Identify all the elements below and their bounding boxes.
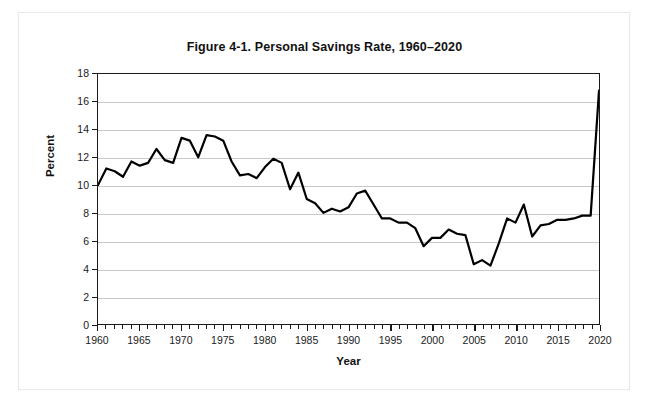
- x-tick-minor: [566, 325, 567, 329]
- x-tick-label: 1995: [367, 334, 413, 346]
- y-tick-label: 10: [55, 180, 89, 190]
- x-tick-minor: [273, 325, 274, 329]
- x-tick-minor: [533, 325, 534, 329]
- x-tick-label: 1985: [284, 334, 330, 346]
- x-tick-minor: [575, 325, 576, 329]
- x-tick-major: [558, 325, 559, 331]
- x-tick-label: 2010: [493, 334, 539, 346]
- figure-page: Figure 4-1. Personal Savings Rate, 1960–…: [0, 0, 649, 411]
- x-tick-minor: [491, 325, 492, 329]
- x-tick-minor: [248, 325, 249, 329]
- x-tick-major: [432, 325, 433, 331]
- x-tick-label: 1960: [74, 334, 120, 346]
- x-tick-minor: [214, 325, 215, 329]
- x-tick-minor: [466, 325, 467, 329]
- x-tick-minor: [541, 325, 542, 329]
- x-tick-label: 1980: [242, 334, 288, 346]
- x-tick-minor: [206, 325, 207, 329]
- plot-area: [97, 73, 600, 325]
- y-tick-label: 14: [55, 124, 89, 134]
- x-tick-minor: [164, 325, 165, 329]
- x-tick-label: 1975: [200, 334, 246, 346]
- y-tick-label: 0: [55, 320, 89, 330]
- x-tick-minor: [441, 325, 442, 329]
- x-tick-label: 2015: [535, 334, 581, 346]
- x-tick-minor: [424, 325, 425, 329]
- x-axis-title: Year: [97, 355, 600, 367]
- x-tick-minor: [332, 325, 333, 329]
- x-tick-minor: [315, 325, 316, 329]
- x-tick-minor: [592, 325, 593, 329]
- x-tick-minor: [231, 325, 232, 329]
- x-tick-minor: [340, 325, 341, 329]
- x-tick-minor: [382, 325, 383, 329]
- y-tick-label: 2: [55, 292, 89, 302]
- x-tick-label: 2000: [409, 334, 455, 346]
- x-tick-label: 2020: [577, 334, 623, 346]
- page-title: Figure 4-1. Personal Savings Rate, 1960–…: [0, 40, 649, 54]
- x-tick-major: [390, 325, 391, 331]
- x-tick-minor: [365, 325, 366, 329]
- y-tick-label: 16: [55, 96, 89, 106]
- y-tick-label: 18: [55, 68, 89, 78]
- x-tick-minor: [323, 325, 324, 329]
- x-tick-minor: [281, 325, 282, 329]
- x-tick-minor: [256, 325, 257, 329]
- x-tick-minor: [172, 325, 173, 329]
- x-tick-major: [516, 325, 517, 331]
- x-tick-label: 1965: [116, 334, 162, 346]
- x-tick-minor: [114, 325, 115, 329]
- x-tick-major: [600, 325, 601, 331]
- x-tick-label: 1970: [158, 334, 204, 346]
- savings-rate-line-series: [98, 74, 599, 324]
- y-tick-label: 4: [55, 264, 89, 274]
- x-tick-minor: [357, 325, 358, 329]
- x-tick-major: [97, 325, 98, 331]
- x-tick-minor: [198, 325, 199, 329]
- x-tick-major: [474, 325, 475, 331]
- x-tick-label: 2005: [451, 334, 497, 346]
- y-tick-label: 6: [55, 236, 89, 246]
- x-tick-minor: [122, 325, 123, 329]
- x-tick-minor: [483, 325, 484, 329]
- y-tick-label: 8: [55, 208, 89, 218]
- x-tick-minor: [449, 325, 450, 329]
- x-tick-major: [307, 325, 308, 331]
- x-tick-major: [181, 325, 182, 331]
- x-tick-minor: [240, 325, 241, 329]
- x-tick-minor: [583, 325, 584, 329]
- x-tick-minor: [105, 325, 106, 329]
- x-tick-minor: [508, 325, 509, 329]
- x-tick-minor: [499, 325, 500, 329]
- x-tick-major: [349, 325, 350, 331]
- x-tick-minor: [399, 325, 400, 329]
- x-tick-minor: [374, 325, 375, 329]
- y-tick-label: 12: [55, 152, 89, 162]
- x-tick-minor: [298, 325, 299, 329]
- x-tick-minor: [416, 325, 417, 329]
- x-tick-minor: [147, 325, 148, 329]
- x-tick-minor: [290, 325, 291, 329]
- x-tick-label: 1990: [326, 334, 372, 346]
- x-tick-major: [223, 325, 224, 331]
- x-tick-major: [265, 325, 266, 331]
- x-tick-minor: [156, 325, 157, 329]
- x-tick-minor: [525, 325, 526, 329]
- x-tick-minor: [407, 325, 408, 329]
- x-tick-major: [139, 325, 140, 331]
- x-tick-minor: [550, 325, 551, 329]
- x-tick-minor: [189, 325, 190, 329]
- x-tick-minor: [131, 325, 132, 329]
- x-tick-minor: [457, 325, 458, 329]
